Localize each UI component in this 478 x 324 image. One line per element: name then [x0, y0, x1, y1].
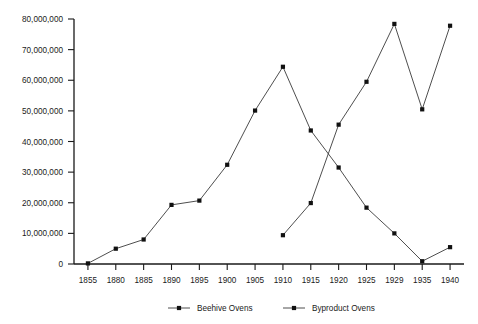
y-axis: 010,000,00020,000,00030,000,00040,000,00…	[22, 15, 74, 269]
data-point-marker	[225, 163, 229, 167]
data-point-marker	[364, 80, 368, 84]
legend-item[interactable]: Byproduct Ovens	[283, 304, 375, 313]
x-axis: 1855188018851890189519001905191019151920…	[74, 264, 464, 285]
data-point-marker	[337, 165, 341, 169]
y-tick-label: 40,000,000	[22, 138, 63, 147]
data-point-marker	[86, 261, 90, 265]
y-tick-label: 30,000,000	[22, 168, 63, 177]
x-tick-label: 1855	[79, 276, 98, 285]
x-tick-label: 1895	[190, 276, 209, 285]
chart-legend: Beehive OvensByproduct Ovens	[168, 304, 375, 313]
data-point-marker	[448, 24, 452, 28]
y-tick-label: 80,000,000	[22, 15, 63, 24]
legend-label: Beehive Ovens	[197, 304, 253, 313]
data-point-marker	[197, 199, 201, 203]
data-point-marker	[392, 231, 396, 235]
data-point-marker	[281, 233, 285, 237]
x-tick-label: 1905	[246, 276, 265, 285]
data-series-group	[86, 22, 452, 266]
line-chart: 010,000,00020,000,00030,000,00040,000,00…	[0, 0, 478, 324]
y-tick-label: 20,000,000	[22, 199, 63, 208]
x-tick-label: 1900	[218, 276, 237, 285]
data-point-marker	[364, 206, 368, 210]
data-point-marker	[337, 123, 341, 127]
y-tick-label: 50,000,000	[22, 107, 63, 116]
y-tick-label: 70,000,000	[22, 46, 63, 55]
data-series	[86, 65, 452, 266]
data-point-marker	[142, 237, 146, 241]
x-tick-label: 1925	[357, 276, 376, 285]
data-point-marker	[392, 22, 396, 26]
x-tick-label: 1935	[413, 276, 432, 285]
data-point-marker	[448, 245, 452, 249]
y-tick-label: 60,000,000	[22, 76, 63, 85]
data-point-marker	[253, 108, 257, 112]
y-tick-label: 10,000,000	[22, 229, 63, 238]
data-point-marker	[169, 203, 173, 207]
data-series	[281, 22, 452, 238]
legend-label: Byproduct Ovens	[312, 304, 375, 313]
x-tick-label: 1920	[330, 276, 349, 285]
chart-canvas: 010,000,00020,000,00030,000,00040,000,00…	[0, 0, 478, 324]
x-tick-label: 1940	[441, 276, 460, 285]
series-line	[283, 24, 450, 235]
data-point-marker	[309, 201, 313, 205]
legend-item[interactable]: Beehive Ovens	[168, 304, 253, 313]
legend-marker-icon	[177, 306, 181, 310]
x-tick-label: 1910	[274, 276, 293, 285]
y-tick-label: 0	[58, 260, 63, 269]
x-tick-label: 1915	[302, 276, 321, 285]
x-tick-label: 1929	[385, 276, 404, 285]
x-tick-label: 1890	[162, 276, 181, 285]
data-point-marker	[420, 259, 424, 263]
data-point-marker	[281, 65, 285, 69]
data-point-marker	[114, 247, 118, 251]
data-point-marker	[309, 128, 313, 132]
x-tick-label: 1880	[107, 276, 126, 285]
x-tick-label: 1885	[135, 276, 154, 285]
data-point-marker	[420, 107, 424, 111]
legend-marker-icon	[292, 306, 296, 310]
